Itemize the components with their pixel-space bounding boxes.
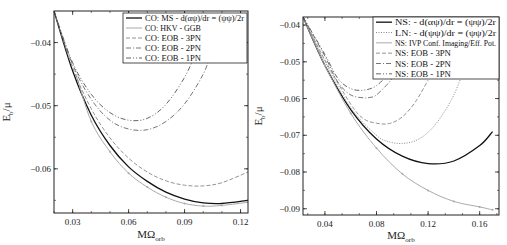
legend-entry: CO: EOB - 3PN — [145, 34, 201, 43]
y-tick-label: −0.07 — [279, 130, 300, 140]
x-tick-label: 0.08 — [369, 219, 385, 229]
x-tick-label: 0.16 — [472, 219, 488, 229]
x-tick-label: 0.06 — [121, 217, 137, 227]
y-tick-label: −0.06 — [30, 164, 51, 174]
y-axis-label: Eb/μ — [0, 102, 15, 121]
x-tick-label: 0.04 — [317, 219, 333, 229]
y-tick-label: −0.05 — [30, 101, 51, 111]
legend: NS: - d(αψ)/dr = (ψψ)/2rLN: - d(ψψ)/dr =… — [373, 17, 499, 79]
legend-entry: CO: EOB - 2PN — [145, 44, 201, 53]
series-line — [76, 76, 248, 206]
x-axis-label: MΩorb — [137, 228, 165, 243]
y-tick-label: −0.04 — [279, 20, 300, 30]
legend-entry: LN: - d(ψψ)/dr = (ψψ)/2r — [395, 29, 496, 38]
y-tick-label: −0.06 — [279, 94, 300, 104]
figure: 0.030.060.090.12−0.04−0.05−0.06MΩorbEb/μ… — [0, 0, 507, 245]
x-tick-label: 0.03 — [65, 217, 81, 227]
x-axis-label: MΩorb — [387, 229, 415, 244]
plot-1: 0.030.060.090.12−0.04−0.05−0.06MΩorbEb/μ… — [0, 11, 249, 243]
y-tick-label: −0.09 — [279, 204, 300, 214]
x-tick-label: 0.12 — [420, 219, 436, 229]
legend-entry: NS: EOB - 1PN — [395, 70, 451, 79]
legend-entry: CO: MS - d(αψ)/dr = (ψψ)/2r — [145, 14, 244, 23]
y-axis-label: Eb/μ — [252, 106, 267, 125]
x-tick-label: 0.12 — [233, 217, 249, 227]
x-tick-label: 0.09 — [177, 217, 193, 227]
y-tick-label: −0.08 — [279, 167, 300, 177]
legend-entry: NS: - d(αψ)/dr = (ψψ)/2r — [395, 18, 496, 27]
legend-entry: NS: EOB - 2PN — [395, 60, 451, 69]
y-tick-label: −0.05 — [279, 57, 300, 67]
legend-entry: CO: HKV - GGB — [145, 24, 201, 33]
legend-entry: NS: EOB - 3PN — [395, 49, 451, 58]
plot-2: 0.040.080.120.16−0.04−0.05−0.06−0.07−0.0… — [252, 16, 499, 244]
legend: CO: MS - d(αψ)/dr = (ψψ)/2rCO: HKV - GGB… — [123, 13, 247, 63]
y-tick-label: −0.04 — [30, 38, 51, 48]
legend-entry: CO: EOB - 1PN — [145, 54, 201, 63]
legend-entry: NS: IVP Conf. Imaging/Eff. Pot. — [395, 39, 496, 48]
